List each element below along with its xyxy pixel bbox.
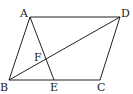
- label-e: E: [50, 82, 58, 93]
- label-c: C: [97, 82, 105, 93]
- label-b: B: [0, 82, 8, 93]
- label-f: F: [34, 52, 42, 63]
- geometry-diagram: A D B E C F: [0, 0, 133, 94]
- segment-ae: [30, 17, 54, 80]
- label-a: A: [20, 8, 28, 19]
- label-d: D: [121, 8, 130, 19]
